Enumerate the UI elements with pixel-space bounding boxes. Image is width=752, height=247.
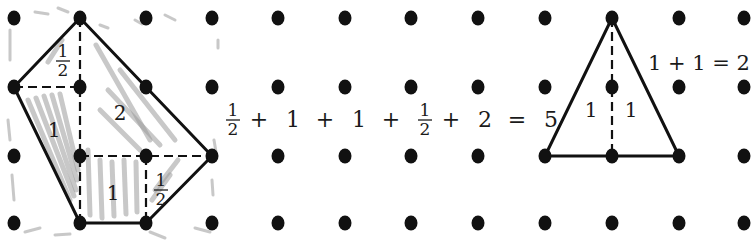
equation-number: 1 (352, 107, 366, 132)
grid-dot (606, 149, 619, 164)
equation-fraction: 12 (226, 100, 240, 139)
fraction-denominator: 2 (228, 119, 239, 139)
fraction-numerator: 1 (156, 170, 167, 190)
grid-dot (738, 216, 751, 231)
grid-dot (74, 11, 87, 26)
grid-dot (405, 11, 418, 26)
grid-dot (539, 80, 552, 95)
fraction-denominator: 2 (58, 60, 69, 80)
fraction-numerator: 1 (228, 100, 239, 120)
grid-dot (206, 149, 219, 164)
grid-dot (74, 149, 87, 164)
grid-dot (405, 149, 418, 164)
grid-dot (8, 149, 21, 164)
piece-label-half-bottom: 12 (154, 170, 168, 209)
piece-label-half-top: 12 (56, 41, 70, 80)
border-sketch (12, 175, 14, 200)
grid-dot (405, 216, 418, 231)
grid-dot (539, 11, 552, 26)
grid-dot (8, 216, 21, 231)
equation-operator: + (250, 107, 268, 132)
grid-dot (8, 11, 21, 26)
shading-stroke (136, 162, 137, 212)
border-sketch (212, 180, 213, 195)
equation-number: 1 (286, 107, 300, 132)
grid-dot (8, 80, 21, 95)
equation-number: 5 (544, 107, 558, 132)
grid-dot (673, 11, 686, 26)
grid-dot (272, 80, 285, 95)
equation-operator: + (382, 107, 400, 132)
grid-dot (472, 149, 485, 164)
grid-dot (272, 216, 285, 231)
border-sketch (25, 228, 40, 232)
piece-label-two: 2 (114, 101, 127, 125)
border-sketch (8, 120, 10, 140)
fraction-denominator: 2 (420, 119, 431, 139)
grid-dot (405, 80, 418, 95)
grid-dot (606, 11, 619, 26)
grid-dot (272, 149, 285, 164)
piece-label-right-half: 1 (625, 98, 638, 122)
grid-dot (339, 216, 352, 231)
grid-dot (738, 149, 751, 164)
grid-dot (74, 216, 87, 231)
grid-dot (140, 216, 153, 231)
grid-dot (140, 149, 153, 164)
equation-operator: = (508, 107, 526, 132)
border-sketch (150, 232, 165, 238)
grid-dot (206, 11, 219, 26)
equation-number: 2 (478, 107, 492, 132)
grid-dot (74, 80, 87, 95)
grid-dot (140, 11, 153, 26)
grid-dot (539, 216, 552, 231)
right-equation: 1 + 1 = 2 (648, 51, 750, 75)
fraction-numerator: 1 (420, 100, 431, 120)
grid-dot (539, 149, 552, 164)
grid-dot (272, 11, 285, 26)
shading-stroke (124, 160, 126, 214)
grid-dot (339, 80, 352, 95)
piece-label-one-left: 1 (48, 118, 61, 142)
piece-label-left-half: 1 (585, 98, 598, 122)
border-sketch (35, 12, 48, 14)
grid-dot (206, 80, 219, 95)
fraction-denominator: 2 (156, 189, 167, 209)
border-sketch (100, 25, 108, 28)
geoboard-figure: 122111212+1+1+12+2=5111 + 1 = 2 (0, 0, 752, 247)
grid-dot (738, 11, 751, 26)
grid-dot (472, 80, 485, 95)
area-labels: 122111212+1+1+12+2=5111 + 1 = 2 (48, 41, 750, 209)
grid-dot (606, 80, 619, 95)
equation-operator: + (442, 107, 460, 132)
border-sketch (58, 8, 68, 12)
grid-dot (206, 216, 219, 231)
border-sketch (165, 15, 175, 20)
piece-label-one-bottom: 1 (107, 181, 120, 205)
grid-dot (472, 11, 485, 26)
border-sketch (55, 234, 70, 235)
grid-dot (606, 216, 619, 231)
grid-dot (673, 80, 686, 95)
grid-dot (673, 149, 686, 164)
equation-operator: + (316, 107, 334, 132)
fraction-numerator: 1 (58, 41, 69, 61)
grid-dot (472, 216, 485, 231)
grid-dot (339, 11, 352, 26)
grid-dot (140, 80, 153, 95)
grid-dot (738, 80, 751, 95)
grid-dot (673, 216, 686, 231)
equation-fraction: 12 (418, 100, 432, 139)
shading-stroke (100, 160, 102, 218)
grid-dot (339, 149, 352, 164)
shading-stroke (88, 150, 90, 215)
